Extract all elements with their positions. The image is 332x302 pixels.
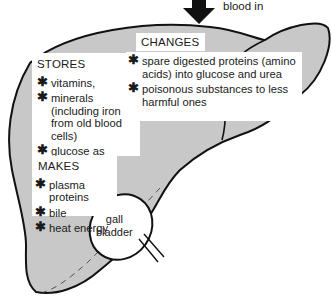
asterisk-bullet-icon: ✱ (128, 54, 139, 67)
blood-in-label: blood in (223, 0, 263, 12)
list-item: ✱spare digested proteins (amino acids) i… (128, 55, 300, 80)
asterisk-bullet-icon: ✱ (35, 178, 46, 191)
list-item: ✱plasma proteins (35, 179, 117, 204)
changes-box-title: CHANGES (136, 33, 205, 51)
asterisk-bullet-icon: ✱ (37, 91, 48, 104)
gall-bladder-label: gall bladder (96, 213, 133, 239)
changes-title: CHANGES (141, 36, 201, 49)
list-item: ✱vitamins, (37, 77, 137, 90)
asterisk-bullet-icon: ✱ (35, 206, 46, 219)
changes-box: ✱spare digested proteins (amino acids) i… (126, 52, 302, 121)
makes-box: MAKES ✱plasma proteins ✱bile ✱heat energ… (32, 156, 117, 216)
stores-box: STORES ✱vitamins, ✱minerals (including i… (32, 53, 140, 156)
makes-title: MAKES (35, 160, 117, 173)
asterisk-bullet-icon: ✱ (128, 82, 139, 95)
list-item: ✱poisonous substances to less harmful on… (128, 83, 300, 108)
asterisk-bullet-icon: ✱ (35, 221, 46, 234)
list-item: ✱minerals (including iron from old blood… (37, 92, 137, 142)
asterisk-bullet-icon: ✱ (37, 144, 48, 157)
stores-title: STORES (37, 58, 137, 71)
asterisk-bullet-icon: ✱ (37, 76, 48, 89)
down-arrow-icon (183, 0, 215, 24)
